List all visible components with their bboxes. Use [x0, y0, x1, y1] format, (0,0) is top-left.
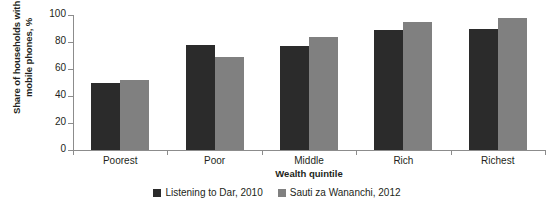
- x-axis-category-label: Middle: [259, 155, 359, 166]
- y-axis-tick-label: 100: [26, 8, 66, 19]
- bar: [91, 83, 120, 151]
- bar: [215, 57, 244, 150]
- y-axis-tick-label: 80: [26, 35, 66, 46]
- y-axis-line: [73, 15, 74, 150]
- bar: [403, 22, 432, 150]
- bar: [309, 37, 338, 150]
- legend-swatch-icon: [278, 189, 286, 197]
- x-axis-category-label: Poor: [165, 155, 265, 166]
- legend-swatch-icon: [153, 189, 161, 197]
- legend-item: Listening to Dar, 2010: [153, 187, 262, 198]
- bar-chart: Share of households with mobile phones, …: [0, 0, 554, 209]
- y-axis-tick-label: 40: [26, 89, 66, 100]
- bar: [498, 18, 527, 150]
- plot-area: 020406080100 PoorestPoorMiddleRichRiches…: [73, 15, 545, 150]
- y-axis-tick-mark: [68, 123, 73, 124]
- y-axis-tick-mark: [68, 15, 73, 16]
- y-axis-tick-mark: [68, 69, 73, 70]
- bar-group: [469, 15, 527, 150]
- y-axis-tick-label: 60: [26, 62, 66, 73]
- y-axis-tick-mark: [68, 42, 73, 43]
- y-axis-tick-label: 20: [26, 116, 66, 127]
- x-axis-category-label: Poorest: [70, 155, 170, 166]
- legend-item: Sauti za Wananchi, 2012: [278, 187, 401, 198]
- bar: [280, 46, 309, 150]
- chart-legend: Listening to Dar, 2010Sauti za Wananchi,…: [0, 187, 554, 198]
- bar: [469, 29, 498, 151]
- bar-group: [186, 15, 244, 150]
- y-axis-tick-mark: [68, 96, 73, 97]
- bar: [186, 45, 215, 150]
- bar-group: [280, 15, 338, 150]
- y-axis-tick-label: 0: [26, 143, 66, 154]
- bar-group: [374, 15, 432, 150]
- bar-group: [91, 15, 149, 150]
- bar: [120, 80, 149, 150]
- bar: [374, 30, 403, 150]
- legend-label: Sauti za Wananchi, 2012: [290, 187, 401, 198]
- x-axis-title: Wealth quintile: [73, 168, 545, 179]
- legend-label: Listening to Dar, 2010: [165, 187, 262, 198]
- x-axis-line: [73, 150, 545, 151]
- x-axis-category-label: Richest: [448, 155, 548, 166]
- x-axis-category-label: Rich: [353, 155, 453, 166]
